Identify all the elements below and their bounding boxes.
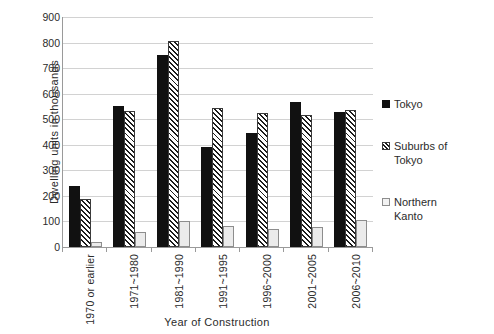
bar-kanto	[356, 220, 367, 247]
y-axis-tick-label: 900	[26, 12, 60, 22]
legend-item: Tokyo	[382, 97, 490, 111]
bar-suburbs	[345, 110, 356, 247]
y-axis-tick-label: 100	[26, 216, 60, 226]
x-axis-category-label: 2006~2010	[350, 254, 362, 309]
y-axis-tick-label: 400	[26, 140, 60, 150]
y-axis-tick-label: 200	[26, 191, 60, 201]
legend-item: NorthernKanto	[382, 195, 490, 223]
x-label-cell: 1991~1995	[195, 252, 239, 316]
x-axis-tick	[372, 247, 373, 252]
bar-tokyo	[246, 133, 257, 247]
x-axis-title: Year of Construction	[62, 316, 372, 328]
y-axis-tick-labels: 9008007006005004003002001000	[26, 10, 60, 254]
legend-label: NorthernKanto	[394, 195, 437, 223]
bar-group	[284, 17, 328, 247]
bar-kanto	[312, 227, 323, 247]
bar-chart: Dwelling units in thousands 900800700600…	[0, 0, 494, 334]
bar-tokyo	[290, 102, 301, 247]
x-axis-category-label: 2001~2005	[306, 254, 318, 309]
bar-group	[196, 17, 240, 247]
bar-suburbs	[301, 115, 312, 247]
plot-area	[62, 17, 373, 247]
y-axis-tick-label: 300	[26, 165, 60, 175]
bar-kanto	[223, 226, 234, 247]
bar-kanto	[135, 232, 146, 247]
bar-group	[107, 17, 151, 247]
bar-suburbs	[257, 113, 268, 247]
x-label-cell: 1981~1990	[151, 252, 195, 316]
y-axis-tick-label: 700	[26, 63, 60, 73]
y-axis-tick-label: 0	[26, 242, 60, 252]
x-axis-category-label: 1981~1990	[173, 254, 185, 309]
chart-legend: TokyoSuburbs ofTokyoNorthernKanto	[382, 97, 490, 251]
legend-label: Tokyo	[394, 97, 423, 111]
bar-suburbs	[124, 111, 135, 247]
bar-group	[329, 17, 373, 247]
bar-suburbs	[80, 199, 91, 247]
y-axis-tick-label: 800	[26, 38, 60, 48]
x-axis-category-label: 1971~1980	[128, 254, 140, 309]
bar-suburbs	[212, 108, 223, 247]
x-label-cell: 2006~2010	[328, 252, 372, 316]
x-label-cell: 2001~2005	[283, 252, 327, 316]
x-label-cell: 1971~1980	[106, 252, 150, 316]
x-axis-category-labels: 1970 or earlier1971~19801981~19901991~19…	[62, 252, 372, 316]
bar-tokyo	[201, 147, 212, 247]
bar-tokyo	[334, 112, 345, 247]
y-axis-tick-label: 600	[26, 89, 60, 99]
bar-group	[63, 17, 107, 247]
legend-label: Suburbs ofTokyo	[394, 139, 447, 167]
legend-swatch-kanto	[382, 198, 390, 206]
x-axis-category-label: 1970 or earlier	[84, 254, 96, 325]
bar-tokyo	[69, 186, 80, 247]
bar-groups	[63, 17, 373, 247]
x-label-cell: 1970 or earlier	[62, 252, 106, 316]
bar-kanto	[268, 229, 279, 247]
bar-tokyo	[157, 55, 168, 247]
bar-group	[152, 17, 196, 247]
bar-group	[240, 17, 284, 247]
legend-swatch-tokyo	[382, 100, 390, 108]
bar-tokyo	[113, 106, 124, 247]
x-axis-category-label: 1991~1995	[217, 254, 229, 309]
bar-suburbs	[168, 41, 179, 247]
y-axis-tick-label: 500	[26, 114, 60, 124]
legend-item: Suburbs ofTokyo	[382, 139, 490, 167]
x-axis-category-label: 1996~2000	[261, 254, 273, 309]
legend-swatch-suburbs	[382, 142, 390, 150]
bar-kanto	[179, 221, 190, 247]
x-label-cell: 1996~2000	[239, 252, 283, 316]
